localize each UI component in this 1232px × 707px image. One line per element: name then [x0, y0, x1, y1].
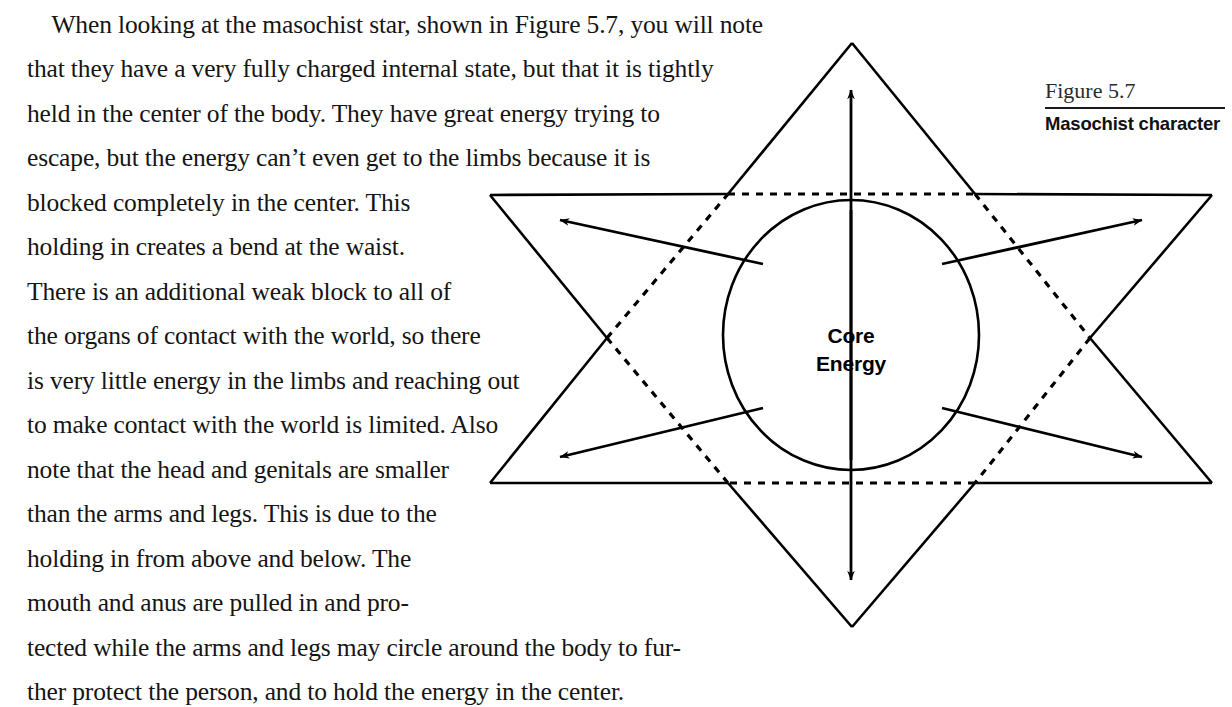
text-line: than the arms and legs. This is due to t… — [27, 499, 437, 529]
text-line: holding in from above and below. The — [27, 544, 411, 574]
core-energy-label-line1: Core — [827, 324, 874, 347]
star-edge-left-upper — [490, 194, 728, 195]
star-edge-top-right-upper — [852, 43, 975, 194]
star-edge-right-upper-lower — [1090, 195, 1212, 338]
energy-arrow-upper-left — [560, 220, 763, 264]
star-edge-left-lower-upper — [490, 338, 607, 483]
hexagon-edge-upper-right-dotted — [975, 194, 1090, 338]
star-edge-right-upper — [975, 194, 1212, 195]
text-line: to make contact with the world is limite… — [27, 410, 498, 440]
star-edge-right-lower-upper — [1090, 338, 1212, 483]
core-energy-label-line2: Energy — [816, 352, 887, 375]
text-line: blocked completely in the center. This — [27, 188, 410, 218]
text-line: the organs of contact with the world, so… — [27, 321, 481, 351]
energy-arrow-upper-right — [942, 220, 1142, 264]
text-line: note that the head and genitals are smal… — [27, 455, 449, 485]
text-line: mouth and anus are pulled in and pro- — [27, 588, 409, 618]
hexagon-edge-lower-right-dotted — [975, 338, 1090, 483]
masochist-star-diagram: Core Energy — [470, 20, 1232, 649]
hexagon-edge-lower-left-dotted — [607, 338, 728, 483]
text-line: holding in creates a bend at the waist. — [27, 232, 405, 262]
star-edge-bottom-left — [728, 483, 852, 627]
star-edge-left-upper-lower — [490, 195, 607, 338]
energy-arrow-lower-right — [942, 408, 1142, 457]
energy-arrow-lower-left — [560, 408, 763, 457]
hexagon-edge-upper-left-dotted — [607, 194, 728, 338]
text-line: There is an additional weak block to all… — [27, 277, 451, 307]
star-edge-top-left-upper — [728, 43, 852, 194]
text-line: ther protect the person, and to hold the… — [27, 677, 624, 707]
star-edge-bottom-right — [852, 483, 975, 627]
text-line: is very little energy in the limbs and r… — [27, 366, 520, 396]
